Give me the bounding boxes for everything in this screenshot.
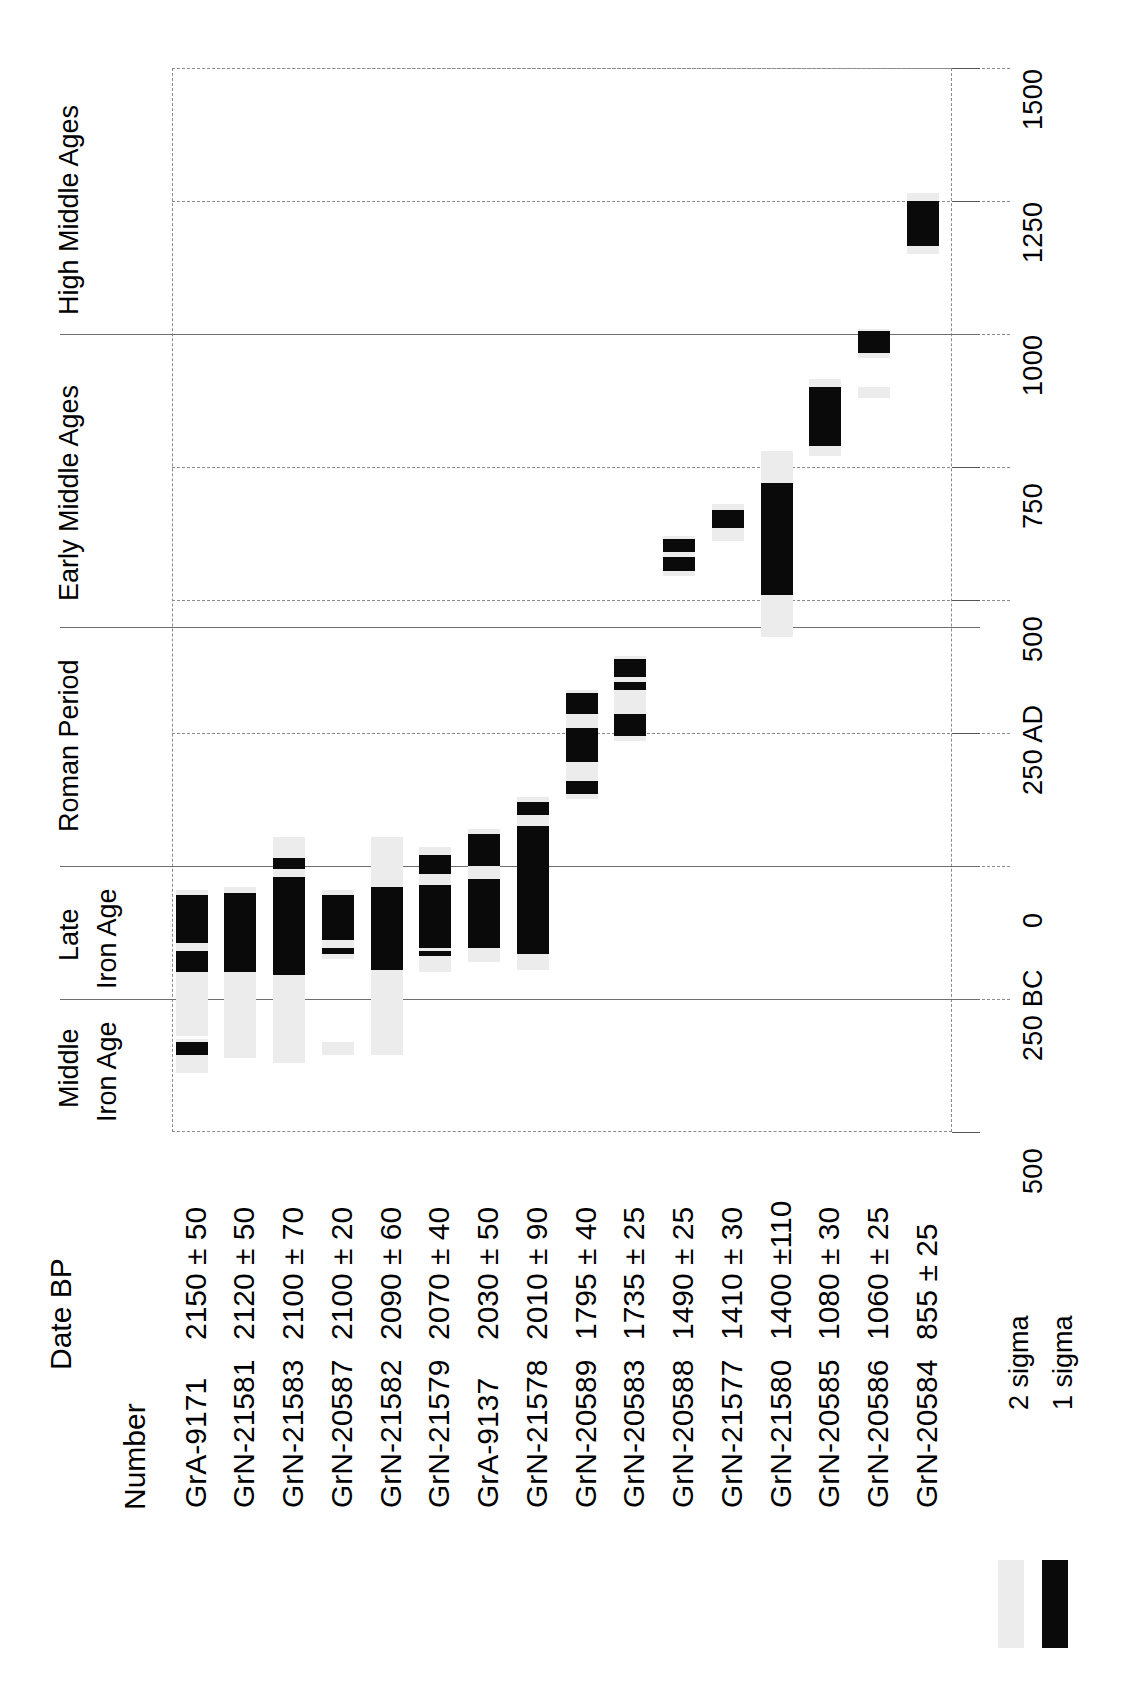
table-cell-date-bp: 2100 ± 20 bbox=[325, 1207, 359, 1340]
table-cell-number: GrN-21583 bbox=[276, 1360, 310, 1508]
table-cell-number: GrN-21577 bbox=[715, 1360, 749, 1508]
table-cell-date-bp: 1400 ±110 bbox=[764, 1201, 798, 1340]
table-cell-number: GrN-21581 bbox=[227, 1360, 261, 1508]
table-cell-number: GrA-9171 bbox=[179, 1378, 213, 1508]
table-cell-date-bp: 1735 ± 25 bbox=[617, 1207, 651, 1340]
table-cell-number: GrA-9137 bbox=[471, 1378, 505, 1508]
table-cell-date-bp: 2120 ± 50 bbox=[227, 1207, 261, 1340]
table-cell-date-bp: 2090 ± 60 bbox=[374, 1207, 408, 1340]
plot-area: 500250 BC0250 AD500750100012501500Middle… bbox=[0, 0, 1131, 1180]
table-cell-date-bp: 2070 ± 40 bbox=[422, 1207, 456, 1340]
legend-label: 1 sigma bbox=[1048, 1315, 1079, 1410]
table-cell-number: GrN-20584 bbox=[910, 1360, 944, 1508]
table-cell-number: GrN-21582 bbox=[374, 1360, 408, 1508]
table-cell-date-bp: 2100 ± 70 bbox=[276, 1207, 310, 1340]
table-cell-date-bp: 1795 ± 40 bbox=[569, 1207, 603, 1340]
table-cell-date-bp: 1410 ± 30 bbox=[715, 1207, 749, 1340]
table-cell-number: GrN-20583 bbox=[617, 1360, 651, 1508]
table-cell-number: GrN-20587 bbox=[325, 1360, 359, 1508]
table-cell-date-bp: 1080 ± 30 bbox=[812, 1207, 846, 1340]
table-column-header: Date BP bbox=[44, 1258, 78, 1370]
sample-bar-column bbox=[0, 0, 1131, 1180]
legend-swatch bbox=[998, 1560, 1024, 1648]
legend: 2 sigma1 sigma bbox=[960, 1280, 1131, 1680]
table-cell-date-bp: 1060 ± 25 bbox=[861, 1207, 895, 1340]
table-cell-date-bp: 2150 ± 50 bbox=[179, 1207, 213, 1340]
table-cell-number: GrN-20586 bbox=[861, 1360, 895, 1508]
sigma1-range bbox=[907, 201, 939, 246]
table-cell-number: GrN-21578 bbox=[520, 1360, 554, 1508]
legend-swatch bbox=[1042, 1560, 1068, 1648]
table-column-header: Number bbox=[118, 1403, 152, 1510]
legend-label: 2 sigma bbox=[1004, 1315, 1035, 1410]
radiocarbon-calibration-figure: 500250 BC0250 AD500750100012501500Middle… bbox=[0, 0, 1131, 1701]
table-cell-number: GrN-20585 bbox=[812, 1360, 846, 1508]
table-cell-number: GrN-21580 bbox=[764, 1360, 798, 1508]
table-cell-number: GrN-20589 bbox=[569, 1360, 603, 1508]
table-cell-date-bp: 2010 ± 90 bbox=[520, 1207, 554, 1340]
table-cell-number: GrN-20588 bbox=[666, 1360, 700, 1508]
table-cell-date-bp: 1490 ± 25 bbox=[666, 1207, 700, 1340]
table-cell-date-bp: 2030 ± 50 bbox=[471, 1207, 505, 1340]
table-cell-number: GrN-21579 bbox=[422, 1360, 456, 1508]
table-cell-date-bp: 855 ± 25 bbox=[910, 1223, 944, 1340]
